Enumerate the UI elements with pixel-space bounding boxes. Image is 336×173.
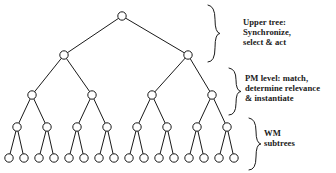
tree-edge xyxy=(94,99,105,123)
annotation-wm-subtrees-line-1: WM xyxy=(264,128,295,138)
tree-node xyxy=(193,123,201,131)
tree-node xyxy=(5,154,13,162)
annotation-upper-tree: Upper tree: Synchronize, select & act xyxy=(243,17,291,48)
tree-edge xyxy=(214,99,225,123)
tree-node xyxy=(148,91,156,99)
tree-node xyxy=(200,154,208,162)
tree-node xyxy=(184,51,192,59)
tree-node xyxy=(208,91,216,99)
tree-node xyxy=(110,154,118,162)
tree-node xyxy=(35,154,43,162)
tree-edge xyxy=(40,131,46,154)
tree-nodes xyxy=(5,12,238,162)
tree-edge xyxy=(70,131,76,154)
tree-edge xyxy=(108,131,113,154)
tree-node xyxy=(43,123,51,131)
tree-edge xyxy=(19,99,30,123)
tree-edge xyxy=(220,131,226,154)
tree-node xyxy=(50,154,58,162)
tree-edge xyxy=(130,131,136,154)
annotation-upper-tree-line-2: Synchronize, xyxy=(243,27,291,37)
tree-edge xyxy=(190,59,210,92)
brace-upper-tree xyxy=(208,5,220,62)
tree-node xyxy=(88,91,96,99)
annotation-pm-level-line-2: determine relevance xyxy=(245,83,320,93)
tree-edge xyxy=(126,18,185,53)
tree-edge xyxy=(79,99,90,123)
tree-node xyxy=(20,154,28,162)
annotation-wm-subtrees-line-2: subtrees xyxy=(264,138,295,148)
annotation-upper-tree-line-3: select & act xyxy=(243,37,291,47)
tree-edge xyxy=(168,131,173,154)
annotation-pm-level: PM level: match, determine relevance & i… xyxy=(245,73,320,104)
tree-edge xyxy=(228,131,233,154)
annotation-upper-tree-line-1: Upper tree: xyxy=(243,17,291,27)
tree-edge xyxy=(78,131,83,154)
tree-node xyxy=(80,154,88,162)
tree-node xyxy=(163,123,171,131)
tree-node xyxy=(170,154,178,162)
tree-edge xyxy=(18,131,23,154)
tree-node xyxy=(65,154,73,162)
brace-pm-level xyxy=(229,68,241,115)
tree-node xyxy=(13,123,21,131)
tree-edge xyxy=(199,99,210,123)
tree-node xyxy=(185,154,193,162)
tree-node xyxy=(125,154,133,162)
tree-node xyxy=(28,91,36,99)
tree-node xyxy=(230,154,238,162)
tree-node xyxy=(103,123,111,131)
annotation-wm-subtrees: WM subtrees xyxy=(264,128,295,148)
tree-edge xyxy=(67,18,118,52)
tree-edge xyxy=(160,131,166,154)
tree-node xyxy=(60,51,68,59)
brace-wm-subtrees xyxy=(249,118,261,170)
tree-node xyxy=(155,154,163,162)
tree-edge xyxy=(35,58,62,91)
tree-edge xyxy=(138,131,143,154)
tree-node xyxy=(73,123,81,131)
tree-edge xyxy=(100,131,106,154)
tree-edges xyxy=(10,18,233,154)
tree-edge xyxy=(154,99,165,123)
tree-node xyxy=(223,123,231,131)
tree-node xyxy=(140,154,148,162)
tree-edge xyxy=(139,99,150,123)
tree-node xyxy=(215,154,223,162)
tree-edge xyxy=(10,131,16,154)
tree-edge xyxy=(190,131,196,154)
tree-edge xyxy=(66,58,89,91)
tree-edge xyxy=(198,131,203,154)
tree-node xyxy=(118,12,126,20)
tree-edge xyxy=(48,131,53,154)
tree-node xyxy=(95,154,103,162)
tree-node xyxy=(133,123,141,131)
tree-edge xyxy=(155,58,185,92)
annotation-pm-level-line-3: & instantiate xyxy=(245,93,320,103)
tree-edge xyxy=(34,99,45,123)
annotation-pm-level-line-1: PM level: match, xyxy=(245,73,320,83)
tree-diagram-figure: Upper tree: Synchronize, select & act PM… xyxy=(0,0,336,173)
